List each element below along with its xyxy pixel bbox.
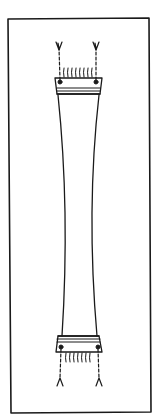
specimen-diagram: [0, 0, 157, 416]
bottom-fibers: [66, 353, 91, 362]
specimen: [58, 95, 99, 336]
bottom-tab: [56, 336, 102, 352]
top-fibers: [64, 68, 93, 77]
top-tab: [55, 78, 102, 94]
bottom-right-rivet: [96, 345, 100, 349]
top-tethers: [56, 42, 99, 80]
frame: [8, 18, 151, 413]
bottom-tethers: [57, 349, 102, 386]
bottom-left-rivet: [59, 345, 63, 349]
